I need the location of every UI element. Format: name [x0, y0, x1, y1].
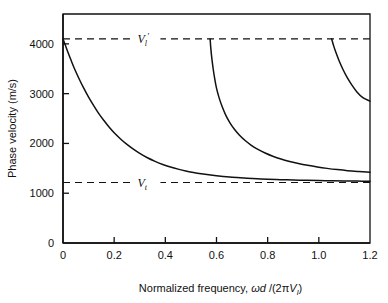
x-tick-label: 1.0 — [311, 249, 326, 261]
plot-frame — [63, 14, 370, 243]
chart-figure: 0100020003000400000.20.40.60.81.01.2Vl′V… — [0, 0, 388, 303]
curve-mode-2 — [332, 39, 370, 101]
curve-mode-1 — [210, 39, 370, 172]
x-tick-label: 1.2 — [362, 249, 377, 261]
x-tick-label: 0.8 — [260, 249, 275, 261]
y-tick-label: 0 — [48, 237, 54, 249]
y-tick-label: 1000 — [30, 187, 54, 199]
curve-mode-0 — [63, 39, 370, 181]
x-axis-title: Normalized frequency, ωd /(2πVl) — [139, 282, 302, 297]
x-tick-label: 0.2 — [107, 249, 122, 261]
x-tick-label: 0.6 — [209, 249, 224, 261]
y-tick-label: 4000 — [30, 38, 54, 50]
dispersion-curve-chart: 0100020003000400000.20.40.60.81.01.2Vl′V… — [0, 0, 388, 303]
y-tick-label: 3000 — [30, 88, 54, 100]
y-tick-label: 2000 — [30, 137, 54, 149]
y-axis-title: Phase velocity (m/s) — [6, 79, 18, 178]
x-tick-label: 0.4 — [158, 249, 173, 261]
x-tick-label: 0 — [60, 249, 66, 261]
